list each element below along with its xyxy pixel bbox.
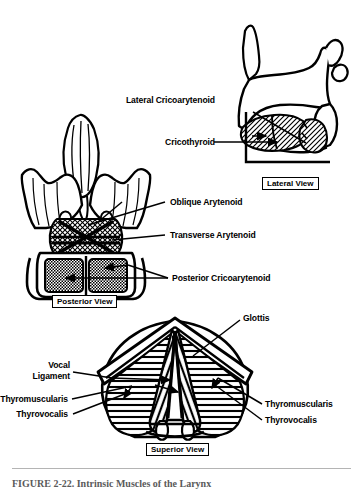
label-thyromuscularis-left: Thyromuscularis bbox=[0, 394, 68, 405]
superior-view-drawing bbox=[72, 318, 262, 440]
label-lateral-cricoarytenoid: Lateral Cricoarytenoid bbox=[53, 95, 215, 106]
caption-divider bbox=[12, 468, 351, 469]
lateral-view-drawing bbox=[214, 26, 348, 162]
label-cricothyroid: Cricothyroid bbox=[85, 137, 215, 148]
figure-caption: FIGURE 2-22. Intrinsic Muscles of the La… bbox=[12, 478, 211, 489]
view-badge-superior: Superior View bbox=[146, 443, 209, 456]
view-badge-lateral: Lateral View bbox=[262, 177, 319, 190]
view-badge-posterior: Posterior View bbox=[52, 295, 117, 308]
label-glottis: Glottis bbox=[243, 313, 270, 324]
label-posterior-cricoarytenoid: Posterior Cricoarytenoid bbox=[172, 273, 270, 284]
label-vocal-ligament-line2: Ligament bbox=[8, 371, 70, 382]
label-thyromuscularis-right: Thyromuscularis bbox=[265, 399, 333, 410]
label-thyrovocalis-left: Thyrovocalis bbox=[0, 409, 68, 420]
label-oblique-arytenoid: Oblique Arytenoid bbox=[170, 197, 242, 208]
label-thyrovocalis-right: Thyrovocalis bbox=[265, 415, 317, 426]
label-transverse-arytenoid: Transverse Arytenoid bbox=[170, 230, 256, 241]
label-vocal-ligament-line1: Vocal bbox=[8, 360, 70, 371]
